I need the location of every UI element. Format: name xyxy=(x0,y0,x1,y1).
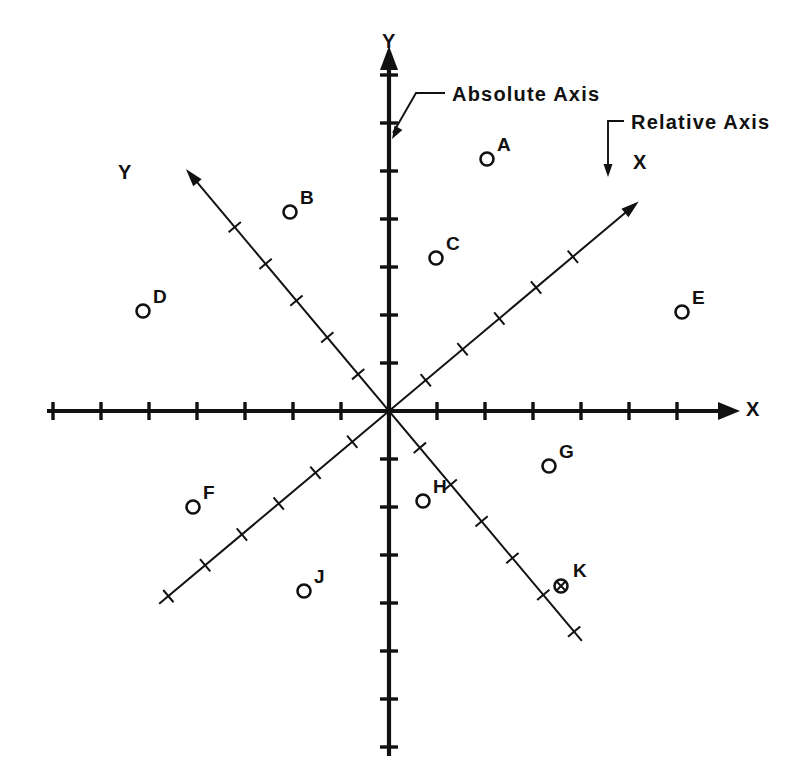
absolute-y-axis-label: Y xyxy=(382,30,396,52)
data-point-k: K xyxy=(555,560,588,593)
data-point-h: H xyxy=(417,476,447,508)
data-point-b: B xyxy=(284,187,314,219)
callout-text-relative: Relative Axis xyxy=(631,111,770,133)
point-marker-circle xyxy=(298,585,311,598)
point-marker-circle xyxy=(676,306,689,319)
point-label-g: G xyxy=(559,441,574,462)
callout-leader-line-absolute xyxy=(393,93,445,133)
point-marker-circle xyxy=(543,460,556,473)
point-marker-circle xyxy=(481,153,494,166)
data-point-a: A xyxy=(481,134,512,166)
absolute-x-axis-arrowhead xyxy=(718,402,740,420)
point-marker-circle xyxy=(430,252,443,265)
callout-arrowhead-absolute xyxy=(392,125,402,139)
callout-labels: Absolute AxisRelative Axis xyxy=(392,83,770,177)
point-label-d: D xyxy=(153,286,167,307)
relative-axes xyxy=(159,169,639,641)
absolute-x-axis-label: X xyxy=(746,398,760,420)
data-point-f: F xyxy=(187,482,215,514)
point-marker-circle xyxy=(137,305,150,318)
data-point-e: E xyxy=(676,287,705,319)
callout-relative: Relative Axis xyxy=(604,111,771,177)
callout-leader-line-relative xyxy=(608,121,624,170)
data-point-d: D xyxy=(137,286,167,318)
callout-arrowhead-relative xyxy=(604,164,613,177)
data-points: ABCDEFGHJK xyxy=(137,134,705,598)
point-marker-circle xyxy=(187,501,200,514)
callout-text-absolute: Absolute Axis xyxy=(452,83,600,105)
relative-x-axis-line xyxy=(159,212,626,604)
data-point-j: J xyxy=(298,566,325,598)
point-label-c: C xyxy=(446,233,460,254)
point-label-k: K xyxy=(573,560,587,581)
callout-absolute: Absolute Axis xyxy=(392,83,600,139)
point-label-e: E xyxy=(692,287,705,308)
point-label-f: F xyxy=(203,482,215,503)
point-label-a: A xyxy=(497,134,511,155)
diagram-canvas: ABCDEFGHJK Absolute AxisRelative Axis X … xyxy=(0,0,799,784)
point-marker-circle xyxy=(417,495,430,508)
axis-diagram: ABCDEFGHJK Absolute AxisRelative Axis X … xyxy=(0,0,799,784)
data-point-c: C xyxy=(430,233,461,265)
relative-x-axis-label: X xyxy=(633,151,647,173)
point-label-j: J xyxy=(314,566,325,587)
point-label-b: B xyxy=(300,187,314,208)
point-label-h: H xyxy=(433,476,447,497)
data-point-g: G xyxy=(543,441,574,473)
point-marker-circle xyxy=(284,206,297,219)
relative-y-axis-label: Y xyxy=(118,161,132,183)
